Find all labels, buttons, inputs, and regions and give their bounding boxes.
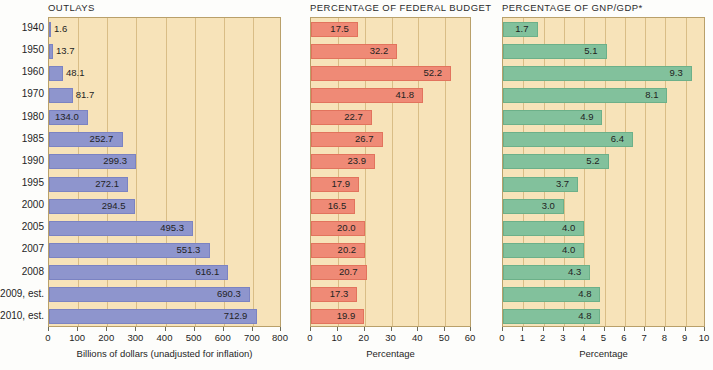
bar-value-label: 3.7 <box>556 178 569 189</box>
bar-row: 8.1 <box>503 84 704 106</box>
x-tick-label-0: 0 <box>499 332 504 343</box>
bar-value-label: 3.0 <box>542 200 555 211</box>
x-tick-600 <box>223 327 224 331</box>
bar-value-label: 4.3 <box>568 266 581 277</box>
x-tick-30 <box>391 327 392 331</box>
year-label-2007: 2007 <box>22 238 44 260</box>
x-tick-label-3: 3 <box>560 332 565 343</box>
bar-1970[interactable] <box>503 88 667 103</box>
bar-row: 4.8 <box>503 284 704 306</box>
bar-1960[interactable] <box>49 66 63 81</box>
x-tick-0 <box>48 327 49 331</box>
bar-row: 5.2 <box>503 151 704 173</box>
bar-row: 294.5 <box>49 195 280 217</box>
year-label-2005: 2005 <box>22 216 44 238</box>
x-tick-10 <box>704 327 705 331</box>
bar-row: 3.0 <box>503 195 704 217</box>
bar-value-label: 616.1 <box>195 266 219 277</box>
bar-row: 495.3 <box>49 217 280 239</box>
bar-1950[interactable] <box>49 44 53 59</box>
bar-1960[interactable] <box>503 66 692 81</box>
x-tick-500 <box>194 327 195 331</box>
x-tick-label-6: 6 <box>621 332 626 343</box>
panel-federal-budget: PERCENTAGE OF FEDERAL BUDGET 17.532.252.… <box>283 0 473 370</box>
bar-row: 551.3 <box>49 239 280 261</box>
bar-value-label: 134.0 <box>55 111 79 122</box>
bar-value-label: 4.0 <box>562 222 575 233</box>
x-tick-label-8: 8 <box>662 332 667 343</box>
bar-value-label: 5.1 <box>584 45 597 56</box>
x-tick-0 <box>502 327 503 331</box>
x-tick-4 <box>583 327 584 331</box>
panel-federal-budget-title: PERCENTAGE OF FEDERAL BUDGET <box>310 2 492 13</box>
bar-row: 52.2 <box>311 62 470 84</box>
bar-value-label: 22.7 <box>344 111 363 122</box>
bar-value-label: 16.5 <box>328 200 347 211</box>
bar-value-label: 1.6 <box>54 23 67 34</box>
bar-row: 4.8 <box>503 306 704 327</box>
bar-value-label: 9.3 <box>670 67 683 78</box>
bar-value-label: 20.7 <box>339 266 358 277</box>
x-tick-200 <box>106 327 107 331</box>
bar-row: 19.9 <box>311 306 470 327</box>
x-tick-8 <box>664 327 665 331</box>
bar-row: 5.1 <box>503 40 704 62</box>
year-label-1990: 1990 <box>22 150 44 172</box>
bar-value-label: 294.5 <box>102 200 126 211</box>
bar-row: 252.7 <box>49 129 280 151</box>
x-tick-label-20: 20 <box>358 332 369 343</box>
panel-outlays-plot-area: 1.613.748.181.7134.0252.7299.3272.1294.5… <box>48 17 281 327</box>
bar-value-label: 17.9 <box>331 178 350 189</box>
year-label-1980: 1980 <box>22 106 44 128</box>
bar-row: 272.1 <box>49 173 280 195</box>
x-tick-label-9: 9 <box>682 332 687 343</box>
bar-value-label: 5.2 <box>586 155 599 166</box>
x-tick-20 <box>364 327 365 331</box>
bar-row: 1.7 <box>503 18 704 40</box>
x-tick-3 <box>563 327 564 331</box>
panel-federal-budget-x-axis: 0102030405060 <box>310 327 471 349</box>
x-tick-60 <box>470 327 471 331</box>
bar-1970[interactable] <box>49 88 73 103</box>
bar-row: 4.0 <box>503 217 704 239</box>
x-tick-0 <box>310 327 311 331</box>
year-label-1940: 1940 <box>22 17 44 39</box>
bar-value-label: 32.2 <box>370 45 389 56</box>
panel-gnp-gdp-plot-area: 1.75.19.38.14.96.45.23.73.04.04.04.34.84… <box>502 17 705 327</box>
year-axis-labels: 1940195019601970198019851990199520002005… <box>0 17 44 327</box>
panel-gnp-gdp-x-axis-title: Percentage <box>502 348 705 359</box>
bar-row: 20.7 <box>311 262 470 284</box>
year-label-1960: 1960 <box>22 61 44 83</box>
panel-outlays: OUTLAYS 19401950196019701980198519901995… <box>0 0 283 370</box>
bar-value-label: 52.2 <box>423 67 442 78</box>
bar-value-label: 20.2 <box>338 244 357 255</box>
year-label-1950: 1950 <box>22 39 44 61</box>
bar-row: 16.5 <box>311 195 470 217</box>
x-tick-700 <box>252 327 253 331</box>
x-tick-label-1: 1 <box>520 332 525 343</box>
bar-row: 22.7 <box>311 107 470 129</box>
x-tick-50 <box>444 327 445 331</box>
x-tick-label-7: 7 <box>641 332 646 343</box>
bar-row: 4.0 <box>503 239 704 261</box>
bar-value-label: 8.1 <box>645 89 658 100</box>
x-tick-6 <box>624 327 625 331</box>
year-label-1985: 1985 <box>22 128 44 150</box>
x-tick-label-10: 10 <box>699 332 710 343</box>
bar-value-label: 6.4 <box>611 133 624 144</box>
x-tick-10 <box>337 327 338 331</box>
x-tick-label-600: 600 <box>215 332 231 343</box>
bar-value-label: 551.3 <box>177 244 201 255</box>
bar-value-label: 81.7 <box>76 89 95 100</box>
x-tick-label-500: 500 <box>186 332 202 343</box>
x-tick-1 <box>522 327 523 331</box>
x-tick-800 <box>280 327 281 331</box>
bar-row: 134.0 <box>49 107 280 129</box>
bar-row: 32.2 <box>311 40 470 62</box>
bar-1940[interactable] <box>49 22 51 37</box>
bar-row: 13.7 <box>49 40 280 62</box>
bar-value-label: 4.0 <box>562 244 575 255</box>
panel-outlays-x-axis: 0100200300400500600700800 <box>48 327 281 349</box>
bar-value-label: 17.5 <box>330 23 349 34</box>
bar-row: 712.9 <box>49 306 280 327</box>
